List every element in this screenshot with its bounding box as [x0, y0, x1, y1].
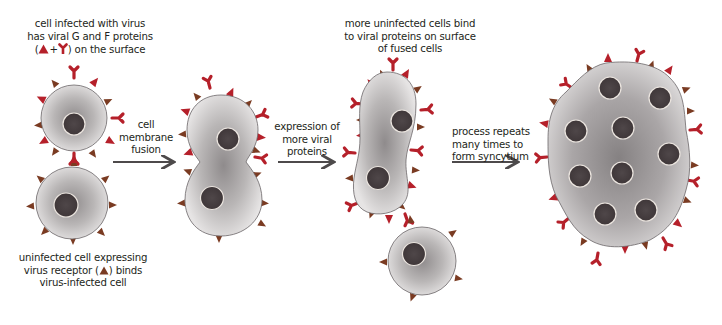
infected-cell-label-line2: has viral G and F proteins — [25, 31, 155, 44]
expanded-fused-cell — [353, 72, 416, 214]
stage-2 — [177, 76, 270, 243]
stage-4 — [536, 49, 702, 264]
nucleus — [201, 187, 224, 210]
f-protein-icon — [38, 44, 49, 54]
nucleus — [54, 193, 78, 217]
uninfected-cell-label: uninfected cell expressing virus recepto… — [13, 252, 153, 290]
nucleus — [63, 113, 85, 135]
step3-label: process repeats many times to form syncy… — [452, 126, 522, 164]
nucleus — [217, 128, 239, 150]
fused-cell — [185, 95, 262, 236]
uninfected-cell-label-line3: virus-infected cell — [13, 277, 153, 290]
nucleus — [391, 110, 413, 132]
nucleus — [403, 243, 426, 266]
nucleus — [367, 167, 390, 190]
infected-cell-label-line1: cell infected with virus — [25, 18, 155, 31]
stage-1 — [26, 67, 123, 245]
step3-top-label: more uninfected cells bind to viral prot… — [340, 18, 480, 56]
step1-label: cell membrane fusion — [118, 119, 174, 157]
infected-cell-label: cell infected with virus has viral G and… — [25, 18, 155, 57]
infected-cell-label-line3: (+) on the surface — [25, 43, 155, 57]
stage-3 — [344, 59, 464, 303]
step2-label: expression of more viral proteins — [272, 121, 342, 159]
receptor-icon — [99, 266, 109, 275]
uninfected-cell-label-line2: virus receptor () binds — [13, 265, 153, 278]
g-protein-icon — [58, 43, 68, 54]
uninfected-cell-label-line1: uninfected cell expressing — [13, 252, 153, 265]
